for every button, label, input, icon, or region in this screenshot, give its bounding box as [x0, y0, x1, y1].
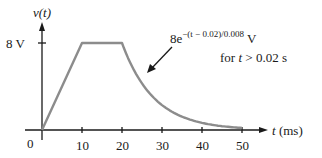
x-axis-arrow-icon [259, 127, 268, 133]
x-tick-label-20: 20 [116, 139, 129, 152]
y-tick-label: 8 V [6, 37, 25, 50]
annotation-condition: for t > 0.02 s [220, 51, 287, 64]
y-axis-arrow-icon [39, 22, 45, 31]
x-tick-label-30: 30 [156, 139, 169, 152]
annotation-formula: 8e−(t − 0.02)/0.008 V [170, 30, 256, 45]
voltage-curve [42, 43, 242, 130]
y-axis-label: v(t) [33, 6, 51, 19]
x-tick-label-10: 10 [76, 139, 89, 152]
origin-label: 0 [27, 137, 34, 150]
x-axis-label: t (ms) [272, 124, 303, 137]
x-tick-label-40: 40 [196, 139, 209, 152]
x-tick-label-50: 50 [236, 139, 249, 152]
annotation-arrow-line [151, 47, 172, 69]
